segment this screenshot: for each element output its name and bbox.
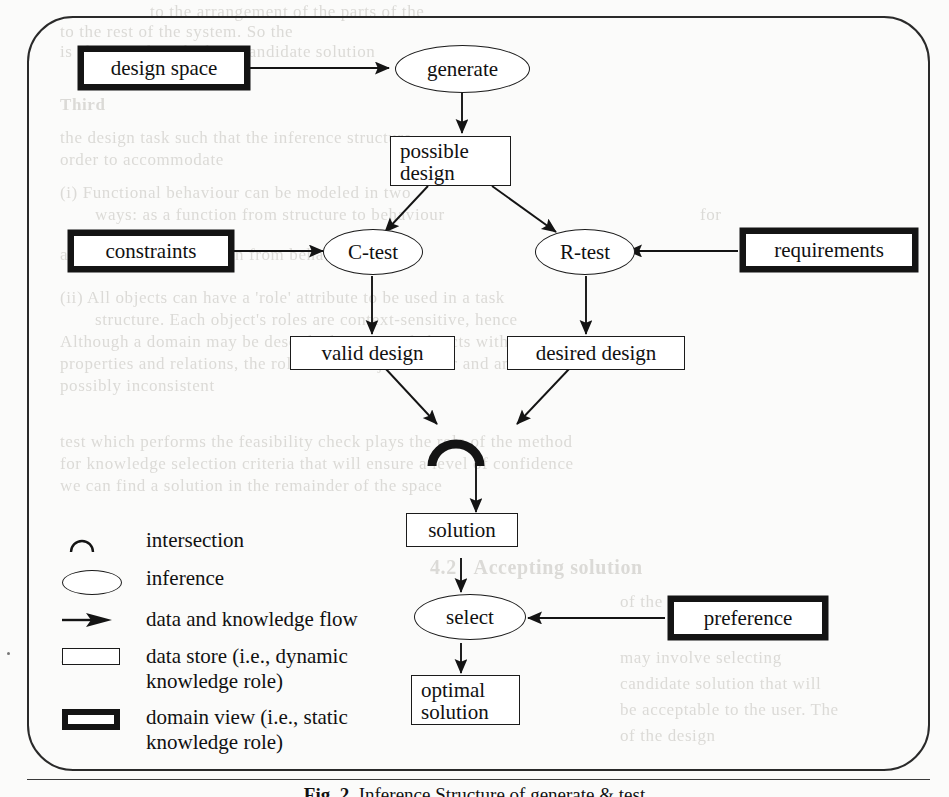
node-design-space[interactable]: design space xyxy=(78,46,250,90)
node-desired-design[interactable]: desired design xyxy=(507,336,685,370)
legend-item-data-store: data store (i.e., dynamic knowledge role… xyxy=(60,644,358,694)
node-label: C-test xyxy=(348,240,398,265)
thick-rectangle-icon xyxy=(60,705,146,730)
node-label: desired design xyxy=(536,341,657,366)
node-requirements[interactable]: requirements xyxy=(740,228,918,272)
node-label: valid design xyxy=(321,341,423,366)
node-label: requirements xyxy=(774,238,884,263)
node-label: R-test xyxy=(560,240,610,265)
legend-label: data and knowledge flow xyxy=(146,607,358,632)
legend-item-inference: inference xyxy=(60,566,358,595)
legend-item-flow: data and knowledge flow xyxy=(60,607,358,632)
node-label: design space xyxy=(111,56,218,81)
node-c-test[interactable]: C-test xyxy=(323,229,423,275)
legend: intersection inference data and knowledg… xyxy=(60,528,358,767)
legend-label: intersection xyxy=(146,528,244,553)
node-label: preference xyxy=(704,606,793,631)
node-select[interactable]: select xyxy=(414,594,526,640)
intersection-arc-icon xyxy=(60,528,146,554)
legend-label: inference xyxy=(146,566,224,591)
legend-item-domain-view: domain view (i.e., static knowledge role… xyxy=(60,705,358,755)
thin-rectangle-icon xyxy=(60,644,146,665)
arrow-icon xyxy=(60,607,146,629)
node-label: generate xyxy=(427,57,498,82)
node-constraints[interactable]: constraints xyxy=(68,230,234,272)
legend-item-intersection: intersection xyxy=(60,528,358,554)
node-label: optimal solution xyxy=(421,680,513,724)
legend-label: domain view (i.e., static knowledge role… xyxy=(146,705,348,755)
node-optimal-solution[interactable]: optimal solution xyxy=(411,675,520,725)
figure-caption: Fig. 2. Inference Structure of generate … xyxy=(0,784,949,797)
node-possible-design[interactable]: possible design xyxy=(390,136,511,186)
node-label: possible design xyxy=(400,141,504,185)
caption-label: Fig. 2. xyxy=(304,784,354,797)
ellipse-icon xyxy=(60,566,146,595)
node-generate[interactable]: generate xyxy=(395,45,530,93)
node-r-test[interactable]: R-test xyxy=(535,229,635,275)
node-label: constraints xyxy=(106,239,197,264)
node-label: solution xyxy=(428,518,496,543)
node-solution[interactable]: solution xyxy=(406,513,518,547)
figure-page: to the arrangement of the parts of the t… xyxy=(0,0,949,797)
caption-text: Inference Structure of generate & test xyxy=(359,784,645,797)
node-preference[interactable]: preference xyxy=(668,596,828,640)
node-label: select xyxy=(446,605,494,630)
legend-label: data store (i.e., dynamic knowledge role… xyxy=(146,644,348,694)
node-valid-design[interactable]: valid design xyxy=(290,336,455,370)
